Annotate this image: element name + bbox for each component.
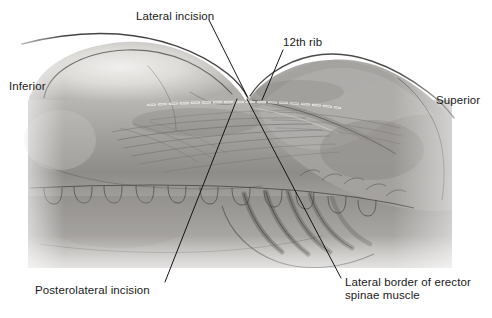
- top-edge-fade: [0, 0, 492, 30]
- label-twelfth-rib: 12th rib: [283, 36, 322, 49]
- label-inferior: Inferior: [9, 80, 46, 93]
- label-lateral-incision: Lateral incision: [136, 10, 214, 23]
- label-superior: Superior: [436, 94, 480, 107]
- illustration-artwork: [0, 0, 492, 318]
- anatomical-figure: Lateral incision 12th rib Inferior Super…: [0, 0, 492, 318]
- label-posterolateral-incision: Posterolateral incision: [35, 284, 150, 297]
- label-lateral-border-erector-spinae: Lateral border of erector spinae muscle: [345, 276, 471, 302]
